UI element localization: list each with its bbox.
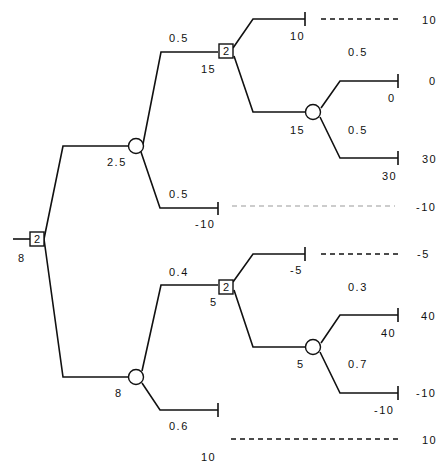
- lower-top-payoff: -5: [417, 248, 430, 260]
- upper-top-value: 10: [290, 30, 305, 42]
- lower-right-down-payoff: -10: [416, 387, 436, 399]
- lower-top-value: -5: [290, 264, 303, 276]
- lower-prob-up: 0.4: [169, 266, 189, 278]
- upper-right-prob-up: 0.5: [348, 46, 368, 58]
- lower-right-down-value: -10: [374, 404, 394, 416]
- upper-down-payoff: -10: [416, 201, 436, 213]
- lower-chance-value: 8: [115, 387, 123, 399]
- upper-right-up-payoff: 0: [429, 75, 437, 87]
- root-value: 8: [18, 252, 26, 264]
- upper-right-chance-value: 15: [290, 124, 305, 136]
- lower-right-chance-node: [306, 340, 321, 355]
- lower-prob-down: 0.6: [169, 420, 189, 432]
- lower-right-prob-up: 0.3: [348, 281, 368, 293]
- root-decision-label: 2: [30, 232, 44, 246]
- upper-right-up-value: 0: [388, 92, 396, 104]
- upper-chance-value: 2.5: [107, 156, 127, 168]
- upper-chance-node: [129, 139, 144, 154]
- upper-decision-label: 2: [219, 44, 233, 58]
- upper-prob-down: 0.5: [169, 188, 189, 200]
- lower-decision-label: 2: [219, 280, 233, 294]
- lower-chance-node: [129, 370, 144, 385]
- upper-right-prob-down: 0.5: [348, 124, 368, 136]
- upper-top-payoff: 10: [422, 14, 437, 26]
- lower-right-chance-value: 5: [297, 358, 305, 370]
- lower-right-up-value: 40: [381, 327, 396, 339]
- lower-down-value: 10: [201, 451, 216, 463]
- upper-decision-value: 15: [201, 63, 216, 75]
- upper-right-down-value: 30: [382, 170, 397, 182]
- upper-right-chance-node: [306, 105, 321, 120]
- lower-right-up-payoff: 40: [421, 310, 436, 322]
- upper-prob-up: 0.5: [169, 32, 189, 44]
- upper-right-down-payoff: 30: [422, 153, 437, 165]
- lower-right-prob-down: 0.7: [348, 358, 368, 370]
- lower-decision-value: 5: [210, 296, 218, 308]
- decision-tree-lines: [0, 0, 444, 474]
- upper-down-value: -10: [195, 218, 215, 230]
- lower-down-payoff: 10: [422, 434, 437, 446]
